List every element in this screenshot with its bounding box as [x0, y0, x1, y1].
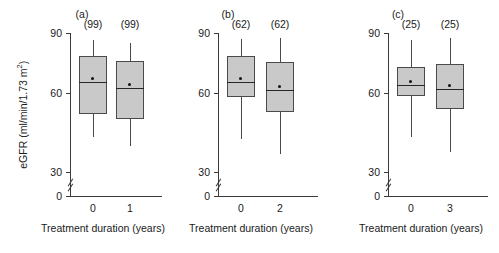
panel-b-x-axis — [218, 196, 318, 197]
panel-a-box-0-whisker-high — [93, 40, 94, 56]
panel-c-box-1-median — [436, 89, 464, 90]
panel-b-box-1-whisker-high — [280, 38, 281, 62]
panel-c-yticklabel-90: 90 — [356, 27, 380, 39]
panel-a-yticklabel-30: 30 — [38, 166, 62, 178]
panel-a-yticklabel-60: 60 — [38, 87, 62, 99]
panel-b-yticklabel-30: 30 — [186, 166, 210, 178]
panel-b-box-0-median — [227, 82, 255, 83]
panel-c-yticklabel-0: 0 — [356, 190, 380, 202]
panel-b-box-0-count: (62) — [221, 18, 261, 30]
panel-a-ytick-90 — [66, 33, 70, 34]
panel-b-xticklabel-0: 0 — [226, 202, 256, 214]
panel-a-box-1 — [116, 61, 144, 119]
panel-b-ytick-90 — [214, 33, 218, 34]
panel-a-y-axis — [70, 33, 71, 196]
panel-a-xticklabel-1: 1 — [115, 202, 145, 214]
panel-a-xticklabel-0: 0 — [78, 202, 108, 214]
panel-a-x-axis-title: Treatment duration (years) — [38, 222, 168, 234]
panel-c-box-0-count: (25) — [391, 18, 431, 30]
panel-b-x-axis-title: Treatment duration (years) — [186, 222, 316, 234]
panel-b: (b) 90 60 30 0 0 2 Treatment duration (y… — [160, 0, 335, 253]
panel-c-box-0-whisker-low — [411, 96, 412, 137]
panel-a-yticklabel-90: 90 — [38, 27, 62, 39]
panel-c-box-1-whisker-low — [450, 109, 451, 152]
panel-a-box-0-median — [79, 82, 107, 83]
panel-c-ytick-90 — [384, 33, 388, 34]
panel-a-box-0-whisker-low — [93, 114, 94, 137]
panel-b-yticklabel-0: 0 — [186, 190, 210, 202]
panel-c-yticklabel-30: 30 — [356, 166, 380, 178]
panel-c-box-0-whisker-high — [411, 40, 412, 67]
panel-c-xticklabel-1: 3 — [435, 202, 465, 214]
panel-a: (a) 90 60 30 0 0 1 Treatment duration (y… — [0, 0, 170, 253]
figure-eGFR-boxplots: eGFR (ml/min/1.73 m2) (a) 90 60 30 0 0 1… — [0, 0, 499, 253]
panel-c-x-axis-title: Treatment duration (years) — [356, 222, 486, 234]
panel-c-box-1-count: (25) — [430, 18, 470, 30]
panel-b-box-0-whisker-low — [241, 97, 242, 139]
panel-b-ytick-60 — [214, 93, 218, 94]
panel-c-ytick-30 — [384, 172, 388, 173]
panel-c-y-axis — [388, 33, 389, 196]
panel-c: (c) 90 60 30 0 0 3 Treatment duration (y… — [330, 0, 499, 253]
panel-a-ytick-60 — [66, 93, 70, 94]
panel-a-x-axis — [70, 196, 162, 197]
panel-a-box-0-count: (99) — [73, 18, 113, 30]
panel-c-x-axis — [388, 196, 488, 197]
panel-b-box-1-median — [266, 90, 294, 91]
panel-a-box-0 — [79, 56, 107, 114]
panel-b-yticklabel-90: 90 — [186, 27, 210, 39]
panel-a-box-1-median — [116, 88, 144, 89]
panel-c-box-0-median — [397, 85, 425, 86]
panel-b-yticklabel-60: 60 — [186, 87, 210, 99]
panel-a-box-1-count: (99) — [110, 18, 150, 30]
panel-a-box-1-whisker-low — [130, 119, 131, 146]
panel-b-y-axis — [218, 33, 219, 196]
panel-c-yticklabel-60: 60 — [356, 87, 380, 99]
panel-c-ytick-60 — [384, 93, 388, 94]
panel-c-xticklabel-0: 0 — [396, 202, 426, 214]
panel-b-box-0-whisker-high — [241, 39, 242, 56]
panel-b-xticklabel-1: 2 — [265, 202, 295, 214]
panel-a-yticklabel-0: 0 — [38, 190, 62, 202]
panel-c-box-1-whisker-high — [450, 38, 451, 64]
panel-b-ytick-30 — [214, 172, 218, 173]
panel-a-box-1-whisker-high — [130, 43, 131, 61]
panel-b-box-1-whisker-low — [280, 112, 281, 154]
panel-a-ytick-30 — [66, 172, 70, 173]
panel-b-box-1-count: (62) — [260, 18, 300, 30]
